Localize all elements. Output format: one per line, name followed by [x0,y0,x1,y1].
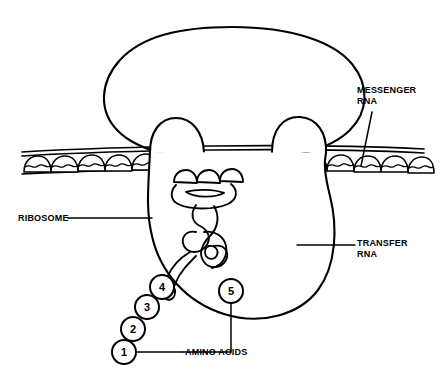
label-amino-acids: AMINO ACIDS [185,347,247,358]
diagram-canvas: 12345 MESSENGER RNA TRANSFER RNA [0,0,442,388]
ribosome-upper-lobe [96,25,376,165]
amino-acid-number-4: 4 [159,281,166,293]
label-transfer-rna-line1: TRANSFER [357,238,408,249]
amino-acid-number-3: 3 [144,301,150,313]
label-messenger-rna-line2: RNA [357,96,416,107]
label-ribosome: RIBOSOME [18,213,69,224]
label-amino-acids-line1: AMINO ACIDS [185,347,247,358]
label-transfer-rna: TRANSFER RNA [357,238,408,260]
label-messenger-rna-line1: MESSENGER [357,85,416,96]
label-ribosome-line1: RIBOSOME [18,213,69,224]
protein-synthesis-diagram: 12345 [0,0,442,388]
amino-acid-number-1: 1 [121,346,127,358]
amino-acid-number-2: 2 [130,323,136,335]
label-messenger-rna: MESSENGER RNA [357,85,416,107]
label-transfer-rna-line2: RNA [357,249,408,260]
amino-acid-number-5: 5 [228,285,234,297]
